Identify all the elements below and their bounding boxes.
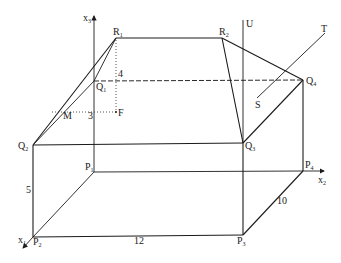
label-x1: x1 bbox=[18, 234, 26, 246]
label-F: F bbox=[118, 107, 124, 118]
label-R1: R1 bbox=[113, 26, 123, 38]
label-Q3: Q3 bbox=[245, 140, 255, 152]
edge-P1-P2 bbox=[33, 172, 94, 237]
point-F-marker bbox=[115, 111, 117, 113]
label-P3: P3 bbox=[237, 235, 246, 247]
label-S: S bbox=[255, 99, 261, 110]
edge-P1-P4 bbox=[94, 171, 303, 172]
edge-R2-Q4 bbox=[222, 38, 303, 80]
label-Q1: Q1 bbox=[96, 81, 106, 93]
label-P1: P1 bbox=[85, 161, 94, 173]
dim-label-5: 5 bbox=[26, 184, 31, 195]
geometry-diagram: x3 x2 x1 R1 R2 U T S Q1 Q4 Q2 Q3 M F P1 … bbox=[0, 0, 341, 263]
line-S-T bbox=[257, 33, 325, 98]
label-M: M bbox=[63, 110, 72, 121]
dim-label-12: 12 bbox=[134, 235, 144, 246]
edge-Q3-Q4 bbox=[243, 80, 303, 143]
label-R2: R2 bbox=[219, 26, 229, 38]
dim-label-10: 10 bbox=[277, 195, 287, 206]
label-Q4: Q4 bbox=[306, 75, 316, 87]
dim-label-4: 4 bbox=[118, 68, 123, 79]
edge-Q1-R1 bbox=[94, 38, 116, 81]
label-x2: x2 bbox=[318, 174, 326, 186]
label-P2: P2 bbox=[33, 236, 42, 248]
label-T: T bbox=[321, 23, 327, 34]
edge-R2-Q3 bbox=[222, 38, 243, 143]
label-Q2: Q2 bbox=[18, 140, 28, 152]
edge-Q2-Q3 bbox=[33, 143, 243, 145]
edge-P3-P4 bbox=[243, 171, 303, 235]
dim-label-3: 3 bbox=[88, 110, 93, 121]
edge-Q1-Q4-hidden bbox=[94, 80, 303, 81]
label-U: U bbox=[246, 18, 254, 29]
label-P4: P4 bbox=[305, 159, 314, 171]
label-x3: x3 bbox=[83, 12, 91, 24]
